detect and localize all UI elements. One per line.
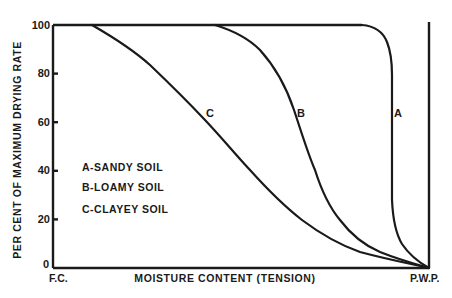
legend-item-c: C-CLAYEY SOIL	[82, 203, 169, 215]
y-tick-80: 80	[38, 67, 50, 79]
legend: A-SANDY SOIL B-LOAMY SOIL C-CLAYEY SOIL	[82, 161, 169, 215]
y-tick-40: 40	[38, 164, 50, 176]
legend-item-b: B-LOAMY SOIL	[82, 181, 164, 193]
y-tick-60: 60	[38, 116, 50, 128]
legend-item-a: A-SANDY SOIL	[82, 161, 163, 173]
x-axis-title: MOISTURE CONTENT (TENSION)	[134, 272, 315, 284]
curve-a-sandy	[362, 25, 429, 268]
y-tick-100: 100	[32, 19, 50, 31]
drying-rate-chart: PER CENT OF MAXIMUM DRYING RATE 100 80 6…	[0, 0, 452, 298]
curve-label-c: C	[206, 107, 214, 119]
y-axis-title: PER CENT OF MAXIMUM DRYING RATE	[11, 41, 23, 259]
curve-label-a: A	[394, 107, 402, 119]
curve-label-b: B	[297, 107, 305, 119]
y-tick-20: 20	[38, 213, 50, 225]
plot-frame	[53, 22, 429, 268]
curve-c-clayey	[92, 25, 429, 268]
x-label-fc: F.C.	[49, 272, 68, 284]
x-label-pwp: P.W.P.	[410, 272, 439, 284]
curves	[92, 25, 429, 268]
y-tick-0: 0	[43, 258, 49, 270]
